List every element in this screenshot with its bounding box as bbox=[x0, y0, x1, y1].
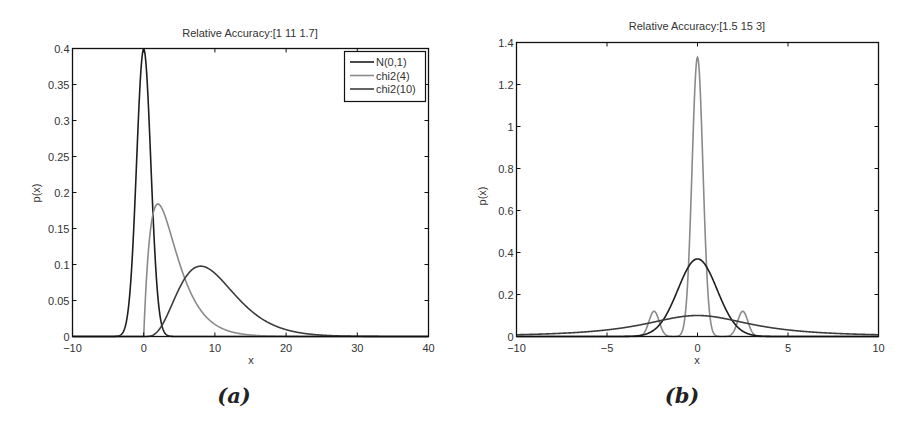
y-tick-label: 0.3 bbox=[54, 115, 69, 127]
x-tick-label: 0 bbox=[141, 342, 147, 354]
y-tick-label: 0.8 bbox=[498, 163, 513, 175]
chart-b-yticks: 00.20.40.60.811.21.4 bbox=[498, 37, 878, 343]
chart-b-title: Relative Accuracy:[1.5 15 3] bbox=[629, 20, 765, 32]
chart-b-ylabel: p(x) bbox=[476, 187, 488, 206]
chart-a-xlabel: x bbox=[248, 354, 254, 366]
y-tick-label: 0.2 bbox=[498, 289, 513, 301]
y-tick-label: 0.25 bbox=[48, 151, 69, 163]
y-tick-label: 0.4 bbox=[54, 43, 69, 55]
y-tick-label: 0.15 bbox=[48, 223, 69, 235]
legend-label: chi2(10) bbox=[376, 83, 416, 95]
x-tick-label: −10 bbox=[507, 342, 526, 354]
y-tick-label: 0.1 bbox=[54, 259, 69, 271]
y-tick-label: 0.05 bbox=[48, 295, 69, 307]
y-tick-label: 0.2 bbox=[54, 187, 69, 199]
legend-label: N(0,1) bbox=[376, 56, 407, 68]
chart-b-curves bbox=[517, 57, 879, 336]
x-tick-label: −5 bbox=[601, 342, 614, 354]
x-tick-label: 5 bbox=[785, 342, 791, 354]
y-tick-label: 1.2 bbox=[498, 79, 513, 91]
x-tick-label: 0 bbox=[694, 342, 700, 354]
x-tick-label: 10 bbox=[872, 342, 884, 354]
y-tick-label: 1 bbox=[507, 121, 513, 133]
chart-a-caption: (a) bbox=[217, 383, 250, 408]
chart-a-title: Relative Accuracy:[1 11 1.7] bbox=[182, 27, 318, 39]
chart-b: Relative Accuracy:[1.5 15 3] −10−50510 0… bbox=[476, 20, 885, 408]
series-gaussian bbox=[517, 259, 879, 337]
y-tick-label: 0.6 bbox=[498, 205, 513, 217]
series-chi2-4- bbox=[73, 204, 429, 336]
y-tick-label: 0.35 bbox=[48, 79, 69, 91]
chart-a: Relative Accuracy:[1 11 1.7] −1001020304… bbox=[30, 27, 435, 408]
y-tick-label: 0 bbox=[63, 331, 69, 343]
chart-b-xticks: −10−50510 bbox=[507, 43, 884, 354]
x-tick-label: 40 bbox=[422, 342, 434, 354]
chart-a-ylabel: p(x) bbox=[30, 184, 42, 203]
y-tick-label: 0.4 bbox=[498, 247, 513, 259]
legend-label: chi2(4) bbox=[376, 70, 410, 82]
chart-b-caption: (b) bbox=[665, 383, 700, 408]
chart-b-xlabel: x bbox=[694, 354, 700, 366]
x-tick-label: 30 bbox=[351, 342, 363, 354]
chart-b-axes bbox=[517, 43, 879, 337]
series-narrow-mixture bbox=[517, 57, 879, 336]
series-heavy-tailed bbox=[517, 316, 879, 335]
figure: Relative Accuracy:[1 11 1.7] −1001020304… bbox=[0, 0, 914, 430]
x-tick-label: 10 bbox=[209, 342, 221, 354]
x-tick-label: −10 bbox=[63, 342, 82, 354]
x-tick-label: 20 bbox=[280, 342, 292, 354]
y-tick-label: 1.4 bbox=[498, 37, 513, 49]
y-tick-label: 0 bbox=[507, 331, 513, 343]
chart-a-legend: N(0,1)chi2(4)chi2(10) bbox=[345, 52, 426, 102]
